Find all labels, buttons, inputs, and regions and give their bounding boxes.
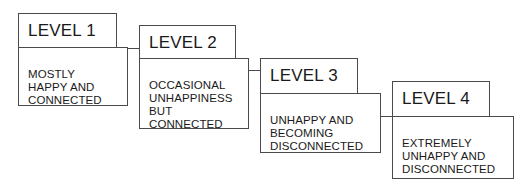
level-1-title: LEVEL 1 — [28, 21, 96, 40]
connector-3-4 — [380, 116, 392, 117]
level-3-description-box: UNHAPPY AND BECOMING DISCONNECTED — [260, 93, 381, 153]
connector-2-3 — [248, 70, 260, 71]
level-4-description-box: EXTREMELY UNHAPPY AND DISCONNECTED — [392, 116, 514, 179]
level-1-description: MOSTLY HAPPY AND CONNECTED — [28, 68, 102, 106]
level-2-header: LEVEL 2 — [139, 25, 236, 59]
level-2-description: OCCASIONAL UNHAPPINESS BUT CONNECTED — [149, 79, 233, 130]
level-4-header: LEVEL 4 — [392, 81, 490, 117]
level-1-header: LEVEL 1 — [18, 13, 117, 48]
level-1-description-box: MOSTLY HAPPY AND CONNECTED — [18, 47, 128, 106]
level-3-header: LEVEL 3 — [260, 58, 358, 94]
connector-1-2 — [127, 48, 139, 49]
level-3-description: UNHAPPY AND BECOMING DISCONNECTED — [270, 114, 363, 152]
level-4-description: EXTREMELY UNHAPPY AND DISCONNECTED — [402, 137, 495, 175]
level-2-description-box: OCCASIONAL UNHAPPINESS BUT CONNECTED — [139, 58, 249, 129]
level-2-title: LEVEL 2 — [149, 33, 217, 52]
level-3-title: LEVEL 3 — [270, 66, 338, 85]
level-4-title: LEVEL 4 — [402, 89, 470, 108]
